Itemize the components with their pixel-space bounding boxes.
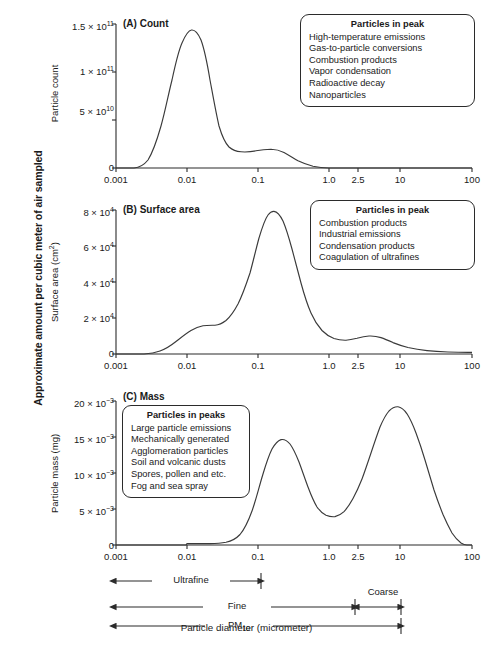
panel-b-legend-item: Combustion products xyxy=(319,218,466,230)
panel-c-mass: (C) Mass Particle mass (mg) 0 5 × 10−3 1… xyxy=(0,376,493,571)
panel-c-xtick-label: 0.01 xyxy=(164,551,210,562)
panel-c-legend-title: Particles in peaks xyxy=(131,410,241,422)
panel-c-legend: Particles in peaks Large particle emissi… xyxy=(122,405,250,498)
panel-c-legend-item: Agglomeration particles xyxy=(131,446,241,458)
x-axis-title: Particle diameter (micrometer) xyxy=(0,622,493,633)
panel-c-legend-item: Soil and volcanic dusts xyxy=(131,457,241,469)
size-range-annotations: Ultrafine Fine Coarse PM10 Particle diam… xyxy=(0,568,493,652)
panel-b-legend-item: Industrial emissions xyxy=(319,229,466,241)
range-label-fine: Fine xyxy=(203,600,271,611)
panel-a-xtick-label: 100 xyxy=(449,174,493,185)
panel-a-legend-item: Combustion products xyxy=(309,55,466,67)
panel-b-xtick-label: 0.1 xyxy=(235,360,281,371)
panel-b-legend-item: Condensation products xyxy=(319,241,466,253)
panel-a-legend-title: Particles in peak xyxy=(309,19,466,31)
panel-b-xtick-label: 0.001 xyxy=(93,360,139,371)
particle-size-distribution-figure: Approximate amount per cubic meter of ai… xyxy=(0,0,493,652)
panel-c-xtick-label: 100 xyxy=(449,551,493,562)
panel-a-legend-item: High-temperature emissions xyxy=(309,32,466,44)
panel-b-xtick-label: 100 xyxy=(449,360,493,371)
panel-c-xtick-label: 0.1 xyxy=(235,551,281,562)
panel-c-xtick-label: 10 xyxy=(377,551,423,562)
panel-a-xtick-label: 2.5 xyxy=(335,174,381,185)
panel-b-xtick-label: 10 xyxy=(377,360,423,371)
panel-b-legend-item: Coagulation of ultrafines xyxy=(319,252,466,264)
panel-c-legend-item: Spores, pollen and etc. xyxy=(131,469,241,481)
panel-c-xtick-label: 0.001 xyxy=(93,551,139,562)
panel-b-legend-title: Particles in peak xyxy=(319,205,466,217)
panel-c-legend-item: Mechanically generated xyxy=(131,434,241,446)
panel-a-count: (A) Count Particle count 0 5 × 1010 1 × … xyxy=(0,0,493,190)
range-label-ultrafine: Ultrafine xyxy=(152,574,230,585)
panel-b-xtick-label: 2.5 xyxy=(335,360,381,371)
panel-a-xtick-label: 10 xyxy=(377,174,423,185)
panel-a-legend-item: Nanoparticles xyxy=(309,90,466,102)
panel-c-xtick-label: 2.5 xyxy=(335,551,381,562)
panel-c-legend-item: Large particle emissions xyxy=(131,423,241,435)
panel-a-xtick-label: 0.1 xyxy=(235,174,281,185)
panel-a-legend: Particles in peak High-temperature emiss… xyxy=(300,14,475,107)
panel-b-xtick-label: 0.01 xyxy=(164,360,210,371)
panel-a-xtick-label: 0.001 xyxy=(93,174,139,185)
range-label-coarse: Coarse xyxy=(348,586,418,597)
panel-a-legend-item: Gas-to-particle conversions xyxy=(309,43,466,55)
panel-a-legend-item: Vapor condensation xyxy=(309,66,466,78)
panel-b-legend: Particles in peak Combustion products In… xyxy=(310,200,475,270)
panel-a-xtick-label: 0.01 xyxy=(164,174,210,185)
panel-c-legend-item: Fog and sea spray xyxy=(131,481,241,493)
panel-a-legend-item: Radioactive decay xyxy=(309,78,466,90)
panel-b-surface-area: (B) Surface area Surface area (cm2) 0 2 … xyxy=(0,188,493,378)
range-arrow-coarse xyxy=(359,599,401,615)
